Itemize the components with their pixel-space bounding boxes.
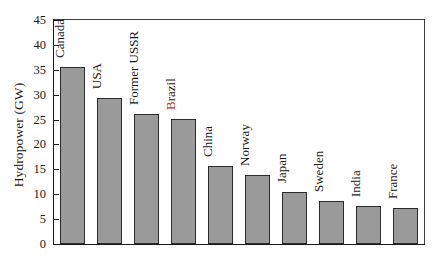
bar-category-label: China	[201, 126, 214, 157]
bar-item[interactable]: France	[393, 20, 417, 244]
y-axis-title: Hydropower (GW)	[8, 0, 30, 270]
y-tick-label: 30	[34, 88, 47, 101]
y-tick-label: 15	[34, 163, 47, 176]
bar-category-label: Brazil	[164, 78, 177, 110]
y-tick-mark	[54, 244, 59, 245]
y-tick-label: 10	[34, 188, 47, 201]
plot-area: 051015202530354045 CanadaUSAFormer USSRB…	[53, 19, 425, 245]
bar-category-label: Former USSR	[127, 31, 140, 105]
y-tick-label: 5	[40, 213, 46, 226]
bar-category-label: USA	[90, 63, 103, 89]
bar[interactable]	[171, 119, 195, 244]
bar-item[interactable]: Japan	[282, 20, 306, 244]
bar-category-label: India	[349, 170, 362, 197]
bar[interactable]	[97, 98, 121, 244]
y-tick-label: 0	[40, 238, 46, 251]
bar-item[interactable]: Canada	[60, 20, 84, 244]
y-tick-label: 45	[34, 14, 47, 27]
y-tick-label: 35	[34, 64, 47, 77]
y-tick-label: 40	[34, 39, 47, 52]
bar-item[interactable]: Brazil	[171, 20, 195, 244]
bar[interactable]	[134, 114, 158, 244]
bar-item[interactable]: Norway	[245, 20, 269, 244]
bar-item[interactable]: USA	[97, 20, 121, 244]
bar-item[interactable]: Sweden	[319, 20, 343, 244]
bar[interactable]	[245, 175, 269, 244]
bar-group: CanadaUSAFormer USSRBrazilChinaNorwayJap…	[54, 20, 424, 244]
bar[interactable]	[208, 166, 232, 244]
y-tick-label: 25	[34, 113, 47, 126]
y-tick-label: 20	[34, 138, 47, 151]
bar[interactable]	[60, 67, 84, 244]
bar-item[interactable]: Former USSR	[134, 20, 158, 244]
bar-category-label: Sweden	[312, 151, 325, 192]
bar-item[interactable]: China	[208, 20, 232, 244]
bar[interactable]	[319, 201, 343, 244]
bar-category-label: Norway	[238, 124, 251, 166]
bar-item[interactable]: India	[356, 20, 380, 244]
hydropower-bar-chart: Hydropower (GW) 051015202530354045 Canad…	[0, 0, 443, 270]
bar-category-label: France	[386, 163, 399, 198]
bar[interactable]	[282, 192, 306, 244]
bar[interactable]	[356, 206, 380, 244]
bar[interactable]	[393, 208, 417, 244]
bar-category-label: Canada	[53, 19, 66, 58]
bar-category-label: Japan	[275, 154, 288, 184]
